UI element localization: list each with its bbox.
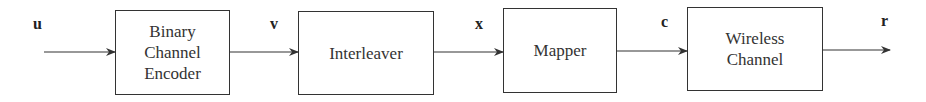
- block-label-line: Wireless: [726, 28, 785, 49]
- signal-label-v: v: [270, 15, 278, 33]
- signal-label-u: u: [33, 15, 42, 33]
- signal-label-c: c: [661, 13, 668, 31]
- interleaver-block: Interleaver: [298, 11, 434, 95]
- block-label-line: Channel: [727, 49, 784, 70]
- block-label-line: Mapper: [534, 40, 587, 61]
- signal-label-x: x: [475, 15, 483, 33]
- block-label-line: Binary: [149, 21, 195, 42]
- binary-channel-encoder-block: Binary Channel Encoder: [115, 10, 230, 95]
- block-label-line: Interleaver: [329, 43, 403, 64]
- signal-label-r: r: [881, 12, 888, 30]
- block-label-line: Encoder: [144, 63, 201, 84]
- block-label-line: Channel: [144, 42, 201, 63]
- wireless-channel-block: Wireless Channel: [687, 7, 823, 91]
- mapper-block: Mapper: [503, 8, 617, 93]
